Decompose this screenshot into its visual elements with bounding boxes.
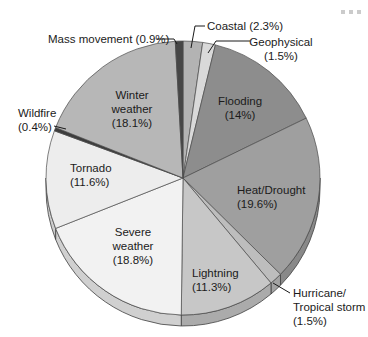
slice-label-geophysical: Geophysical(1.5%) [249, 35, 312, 63]
slice-label-mass-movement: Mass movement (0.9%) [48, 32, 169, 46]
slice-label-line: (11.3%) [192, 280, 239, 294]
slice-label-coastal: Coastal (2.3%) [207, 19, 283, 33]
pie-chart-figure: Mass movement (0.9%)Coastal (2.3%)Geophy… [0, 0, 368, 337]
slice-label-flooding: Flooding(14%) [218, 94, 262, 122]
slice-label-line: (19.6%) [237, 197, 305, 211]
slice-label-line: Coastal (2.3%) [207, 19, 283, 33]
slice-label-line: Tropical storm [293, 300, 365, 314]
slice-label-line: Tornado [70, 161, 112, 175]
slice-label-line: Geophysical [249, 35, 312, 49]
slice-label-line: (1.5%) [293, 314, 365, 328]
slice-label-hurricane: Hurricane/Tropical storm(1.5%) [293, 286, 365, 328]
slice-label-line: Heat/Drought [237, 183, 305, 197]
labels-layer: Mass movement (0.9%)Coastal (2.3%)Geophy… [0, 0, 368, 337]
slice-label-line: weather [113, 239, 154, 253]
slice-label-line: weather [112, 102, 153, 116]
slice-label-line: Severe [113, 225, 154, 239]
slice-label-line: Hurricane/ [293, 286, 365, 300]
slice-label-wildfire: Wildfire(0.4%) [18, 106, 56, 134]
page-corner-artifact [341, 0, 365, 5]
slice-label-tornado: Tornado(11.6%) [70, 161, 112, 189]
slice-label-line: (18.8%) [113, 253, 154, 267]
slice-label-line: Winter [112, 88, 153, 102]
slice-label-heat-drought: Heat/Drought(19.6%) [237, 183, 305, 211]
slice-label-severe-weather: Severeweather(18.8%) [113, 225, 154, 267]
slice-label-lightning: Lightning(11.3%) [192, 266, 239, 294]
slice-label-line: (14%) [218, 108, 262, 122]
slice-label-winter-weather: Winterweather(18.1%) [112, 88, 153, 130]
slice-label-line: (11.6%) [70, 175, 112, 189]
slice-label-line: (1.5%) [249, 49, 312, 63]
slice-label-line: Lightning [192, 266, 239, 280]
slice-label-line: (18.1%) [112, 116, 153, 130]
slice-label-line: Wildfire [18, 106, 56, 120]
slice-label-line: (0.4%) [18, 120, 56, 134]
slice-label-line: Mass movement (0.9%) [48, 32, 169, 46]
slice-label-line: Flooding [218, 94, 262, 108]
